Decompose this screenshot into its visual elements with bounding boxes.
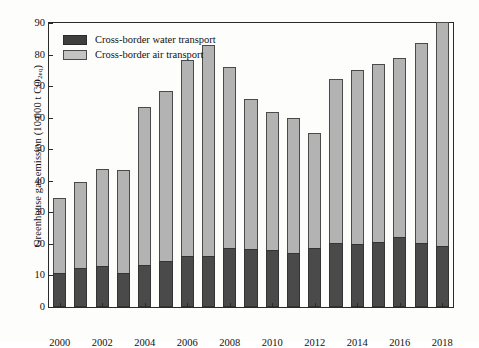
bar-2011: [287, 118, 300, 307]
bar-2016: [393, 58, 406, 307]
bar-segment-water: [223, 248, 236, 307]
legend-label-water: Cross-border water transport: [95, 34, 216, 45]
y-axis-tick-label: 30: [15, 207, 45, 218]
legend-label-air: Cross-border air transport: [95, 49, 203, 60]
bar-2001: [74, 182, 87, 307]
bar-segment-water: [74, 268, 87, 307]
bar-segment-water: [351, 244, 364, 307]
bar-segment-water: [244, 249, 257, 307]
bar-2003: [117, 170, 130, 307]
bar-segment-water: [287, 253, 300, 307]
x-axis-tick-label: 2014: [334, 337, 380, 348]
bar-2012: [308, 133, 321, 307]
legend-item: Cross-border water transport: [63, 32, 216, 47]
bar-segment-water: [415, 243, 428, 307]
x-axis-tick-label: 2006: [164, 337, 210, 348]
bar-segment-water: [181, 256, 194, 307]
y-axis-tick-label: 60: [15, 113, 45, 124]
bar-segment-water: [266, 250, 279, 307]
x-axis-tick-label: 2008: [207, 337, 253, 348]
x-axis-tick-mark: [315, 303, 316, 307]
bar-2014: [351, 70, 364, 307]
x-axis-tick-mark: [60, 303, 61, 307]
y-axis-title-main: Greenhouse gas emission (10 000 t CO: [32, 79, 43, 247]
x-axis-tick-mark: [187, 303, 188, 307]
y-axis-tick-label: 70: [15, 81, 45, 92]
bar-segment-water: [393, 237, 406, 307]
y-axis-tick-mark: [49, 307, 53, 308]
x-axis-tick-label: 2012: [292, 337, 338, 348]
bar-2006: [181, 60, 194, 307]
bar-2013: [329, 79, 342, 307]
x-axis-tick-mark: [102, 303, 103, 307]
bar-2008: [223, 67, 236, 307]
y-axis-title-subscript: 2eq: [36, 69, 44, 79]
y-axis-tick-label: 80: [15, 50, 45, 61]
x-axis-tick-mark: [400, 303, 401, 307]
x-axis-tick-mark: [272, 303, 273, 307]
bar-2000: [53, 198, 66, 307]
y-axis-tick-label: 40: [15, 176, 45, 187]
bar-segment-water: [436, 246, 449, 307]
x-axis-tick-label: 2010: [249, 337, 295, 348]
chart-legend: Cross-border water transport Cross-borde…: [63, 32, 216, 62]
bar-2004: [138, 107, 151, 307]
x-axis-tick-mark: [145, 303, 146, 307]
bar-segment-water: [372, 242, 385, 307]
legend-swatch-air-icon: [63, 50, 87, 60]
x-axis-tick-mark: [357, 303, 358, 307]
y-axis-title-tail: ): [32, 65, 43, 69]
bar-2005: [159, 91, 172, 307]
bar-segment-water: [159, 261, 172, 307]
bar-2009: [244, 99, 257, 307]
bar-segment-water: [117, 273, 130, 307]
x-axis-tick-mark: [230, 303, 231, 307]
bar-segment-water: [329, 243, 342, 307]
x-axis-tick-label: 2002: [79, 337, 125, 348]
bar-2002: [96, 169, 109, 307]
y-axis-tick-label: 50: [15, 144, 45, 155]
bar-segment-water: [138, 265, 151, 307]
y-axis-tick-label: 20: [15, 239, 45, 250]
x-axis-tick-label: 2016: [377, 337, 423, 348]
bar-group: [49, 23, 453, 307]
bar-2007: [202, 45, 215, 307]
bar-segment-water: [308, 248, 321, 307]
y-axis-tick-label: 10: [15, 270, 45, 281]
bar-2018: [436, 22, 449, 307]
bar-segment-water: [202, 256, 215, 307]
bar-2010: [266, 112, 279, 307]
plot-area: 0102030405060708090 20002002200420062008…: [48, 22, 454, 308]
x-axis-tick-label: 2000: [37, 337, 83, 348]
y-axis-tick-label: 90: [15, 18, 45, 29]
y-axis-tick-label: 0: [15, 302, 45, 313]
bar-segment-water: [96, 266, 109, 307]
bar-2017: [415, 43, 428, 307]
x-axis-tick-label: 2018: [419, 337, 465, 348]
legend-swatch-water-icon: [63, 35, 87, 45]
bar-segment-water: [53, 273, 66, 307]
legend-item: Cross-border air transport: [63, 47, 216, 62]
x-axis-tick-label: 2004: [122, 337, 168, 348]
bar-2015: [372, 64, 385, 307]
x-axis-tick-mark: [442, 303, 443, 307]
